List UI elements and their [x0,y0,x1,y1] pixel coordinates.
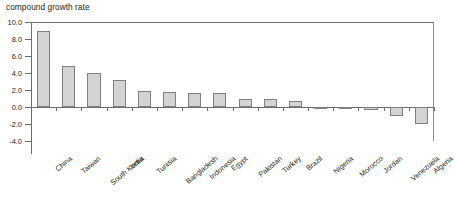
y-axis-line [31,22,32,154]
bar [364,107,377,110]
x-tick [308,107,309,111]
y-tick [25,90,31,91]
y-tick-label: 6.0 [12,52,22,61]
x-tick-label: Nigeria [331,154,354,176]
bar [314,107,327,109]
bar [415,107,428,124]
x-tick [384,107,385,111]
bar [239,99,252,108]
x-tick [157,107,158,111]
y-tick-label: 2.0 [12,86,22,95]
y-tick [25,141,31,142]
x-tick [107,107,108,111]
x-tick [283,107,284,111]
y-tick-label: 8.0 [12,35,22,44]
y-tick [25,56,31,57]
x-tick [207,107,208,111]
y-tick [25,22,31,23]
bar [339,107,352,109]
x-tick [132,107,133,111]
x-tick-label: Taiwan [79,154,102,175]
y-tick [25,73,31,74]
bar [390,107,403,116]
plot-top-border [31,22,434,23]
bar [138,91,151,107]
y-tick-label: 4.0 [12,69,22,78]
bar [37,31,50,107]
plot-right-border [433,22,434,141]
chart-title: compound growth rate [6,2,90,12]
x-tick-label: Jordan [381,154,404,175]
x-tick-label: Brazil [305,154,325,173]
x-tick [434,107,435,111]
y-tick-label: -4.0 [9,137,22,146]
x-tick-label: Pakistan [257,154,284,179]
bar [62,66,75,107]
x-tick [333,107,334,111]
y-tick-label: 0.0 [12,103,22,112]
x-tick [233,107,234,111]
bar [264,99,277,107]
y-tick [25,39,31,40]
x-tick-label: Morocco [357,154,384,179]
y-tick-label: -2.0 [9,120,22,129]
bar [213,93,226,107]
x-tick [182,107,183,111]
bar [188,93,201,107]
x-tick [81,107,82,111]
y-tick-label: 10.0 [8,18,22,27]
x-tick-label: China [53,154,73,173]
x-tick [358,107,359,111]
x-tick [56,107,57,111]
bar [113,80,126,107]
bar [163,92,176,107]
bar [87,73,100,107]
x-tick-label: Tunisia [155,154,179,176]
x-tick [409,107,410,111]
x-tick [258,107,259,111]
y-tick [25,124,31,125]
x-tick-label: Turkey [280,154,303,175]
bar [289,101,302,107]
